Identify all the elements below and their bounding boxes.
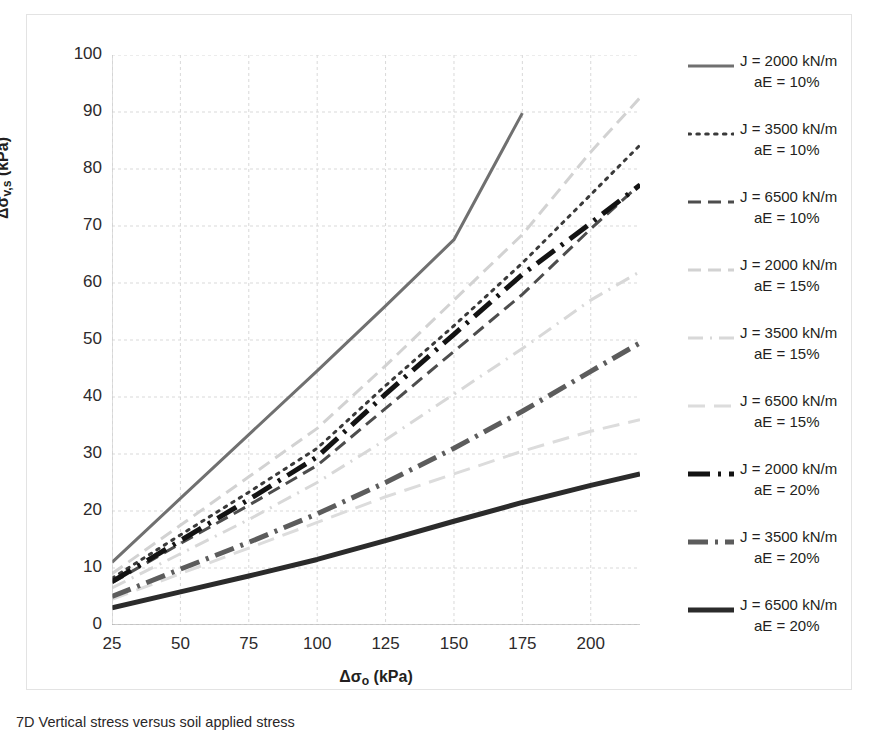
x-tick-25: 25 bbox=[85, 634, 139, 654]
legend-label-line2-5: aE = 15% bbox=[740, 343, 868, 364]
x-tick-200: 200 bbox=[564, 634, 618, 654]
x-axis-title-prefix: Δσ bbox=[339, 668, 361, 685]
y-tick-0: 0 bbox=[50, 614, 102, 634]
y-tick-90: 90 bbox=[50, 101, 102, 121]
x-tick-50: 50 bbox=[153, 634, 207, 654]
legend-swatch-icon-3 bbox=[688, 194, 734, 206]
series-plot bbox=[112, 55, 640, 625]
legend-label-line2-8: aE = 20% bbox=[740, 547, 868, 568]
x-tick-125: 125 bbox=[359, 634, 413, 654]
y-tick-50: 50 bbox=[50, 329, 102, 349]
x-tick-150: 150 bbox=[427, 634, 481, 654]
legend: J = 2000 kN/maE = 10%J = 3500 kN/maE = 1… bbox=[688, 52, 868, 664]
y-tick-60: 60 bbox=[50, 272, 102, 292]
legend-swatch-icon-2 bbox=[688, 126, 734, 138]
legend-label-line1-6: J = 6500 kN/m bbox=[740, 390, 868, 411]
legend-item-9[interactable]: J = 6500 kN/maE = 20% bbox=[688, 596, 868, 664]
y-tick-70: 70 bbox=[50, 215, 102, 235]
legend-label-line1-7: J = 2000 kN/m bbox=[740, 458, 868, 479]
x-axis-title: Δσo (kPa) bbox=[112, 668, 640, 688]
x-tick-100: 100 bbox=[290, 634, 344, 654]
legend-label-line1-3: J = 6500 kN/m bbox=[740, 186, 868, 207]
legend-label-line1-1: J = 2000 kN/m bbox=[740, 50, 868, 71]
legend-swatch-icon-5 bbox=[688, 330, 734, 342]
legend-swatch-icon-1 bbox=[688, 58, 734, 70]
legend-swatch-icon-8 bbox=[688, 534, 734, 546]
x-axis-title-suffix: (kPa) bbox=[369, 668, 413, 685]
legend-item-7[interactable]: J = 2000 kN/maE = 20% bbox=[688, 460, 868, 528]
legend-label-7: J = 2000 kN/maE = 20% bbox=[740, 458, 868, 501]
legend-label-line2-7: aE = 20% bbox=[740, 479, 868, 500]
plot-area bbox=[112, 55, 640, 625]
x-tick-175: 175 bbox=[495, 634, 549, 654]
y-tick-100: 100 bbox=[50, 44, 102, 64]
y-tick-40: 40 bbox=[50, 386, 102, 406]
y-tick-10: 10 bbox=[50, 557, 102, 577]
y-axis-title-subscript: v,s bbox=[0, 181, 14, 197]
legend-swatch-icon-7 bbox=[688, 466, 734, 478]
y-tick-20: 20 bbox=[50, 500, 102, 520]
legend-label-line1-5: J = 3500 kN/m bbox=[740, 322, 868, 343]
figure-caption: 7D Vertical stress versus soil applied s… bbox=[16, 714, 856, 730]
legend-item-3[interactable]: J = 6500 kN/maE = 10% bbox=[688, 188, 868, 256]
data-series-layer bbox=[112, 98, 640, 608]
legend-swatch-icon-9 bbox=[688, 602, 734, 614]
legend-label-line1-2: J = 3500 kN/m bbox=[740, 118, 868, 139]
legend-label-4: J = 2000 kN/maE = 15% bbox=[740, 254, 868, 297]
legend-item-5[interactable]: J = 3500 kN/maE = 15% bbox=[688, 324, 868, 392]
legend-label-8: J = 3500 kN/maE = 20% bbox=[740, 526, 868, 569]
legend-label-5: J = 3500 kN/maE = 15% bbox=[740, 322, 868, 365]
legend-label-line1-4: J = 2000 kN/m bbox=[740, 254, 868, 275]
legend-label-line2-3: aE = 10% bbox=[740, 207, 868, 228]
series-line-9 bbox=[112, 474, 640, 608]
legend-item-6[interactable]: J = 6500 kN/maE = 15% bbox=[688, 392, 868, 460]
y-tick-30: 30 bbox=[50, 443, 102, 463]
legend-label-6: J = 6500 kN/maE = 15% bbox=[740, 390, 868, 433]
legend-label-line2-9: aE = 20% bbox=[740, 615, 868, 636]
legend-swatch-icon-4 bbox=[688, 262, 734, 274]
x-tick-75: 75 bbox=[222, 634, 276, 654]
series-line-5 bbox=[112, 272, 640, 588]
y-axis-title-prefix: Δσ bbox=[0, 197, 11, 219]
legend-label-3: J = 6500 kN/maE = 10% bbox=[740, 186, 868, 229]
legend-label-line2-4: aE = 15% bbox=[740, 275, 868, 296]
y-axis-title: Δσv,s (kPa) bbox=[0, 88, 14, 268]
legend-item-2[interactable]: J = 3500 kN/maE = 10% bbox=[688, 120, 868, 188]
legend-label-line2-6: aE = 15% bbox=[740, 411, 868, 432]
legend-label-line2-1: aE = 10% bbox=[740, 71, 868, 92]
series-line-6 bbox=[112, 420, 640, 600]
legend-label-2: J = 3500 kN/maE = 10% bbox=[740, 118, 868, 161]
legend-item-1[interactable]: J = 2000 kN/maE = 10% bbox=[688, 52, 868, 120]
y-tick-80: 80 bbox=[50, 158, 102, 178]
legend-label-1: J = 2000 kN/maE = 10% bbox=[740, 50, 868, 93]
y-axis-title-suffix: (kPa) bbox=[0, 137, 11, 181]
gridlines bbox=[112, 55, 640, 625]
series-line-8 bbox=[112, 343, 640, 597]
series-line-7 bbox=[112, 185, 640, 582]
legend-label-line1-8: J = 3500 kN/m bbox=[740, 526, 868, 547]
legend-item-8[interactable]: J = 3500 kN/maE = 20% bbox=[688, 528, 868, 596]
legend-swatch-icon-6 bbox=[688, 398, 734, 410]
legend-label-9: J = 6500 kN/maE = 20% bbox=[740, 594, 868, 637]
legend-label-line2-2: aE = 10% bbox=[740, 139, 868, 160]
figure-container: Δσv,s (kPa) Δσo (kPa) 010203040506070809… bbox=[0, 0, 878, 730]
legend-label-line1-9: J = 6500 kN/m bbox=[740, 594, 868, 615]
series-line-2 bbox=[112, 145, 640, 578]
legend-item-4[interactable]: J = 2000 kN/maE = 15% bbox=[688, 256, 868, 324]
